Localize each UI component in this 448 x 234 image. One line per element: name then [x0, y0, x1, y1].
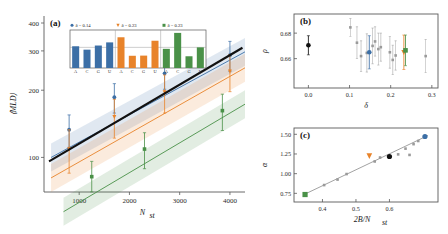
data-point: [379, 156, 382, 159]
data-point: [345, 173, 348, 176]
inset-bar: [140, 56, 147, 68]
inset-bar: [129, 56, 136, 68]
data-point: [323, 184, 326, 187]
panel-b-frame: [294, 14, 438, 88]
data-point: [306, 43, 311, 48]
data-point-group: [424, 40, 427, 73]
inset-bar-label: C: [176, 69, 179, 74]
data-point-group: [371, 28, 374, 64]
inset-bar-label: A: [165, 69, 169, 74]
y-tick-label: 1.00: [280, 170, 291, 177]
legend-label: δ = 0.23: [122, 23, 138, 28]
data-point: [408, 154, 411, 157]
inset-bar: [174, 33, 181, 68]
data-point-group: [360, 41, 363, 72]
x-tick-label: 0.4: [319, 205, 327, 212]
inset-bar: [117, 37, 124, 68]
data-point: [389, 51, 392, 54]
panel-a-xlabel: Nst: [139, 208, 156, 220]
data-point: [367, 50, 372, 55]
y-tick-label: 1.50: [280, 131, 291, 138]
legend-marker: [71, 24, 74, 27]
data-point: [112, 95, 116, 99]
y-tick-label: 100: [29, 154, 40, 162]
data-point-group: [380, 33, 383, 61]
y-tick-label: 0.68: [280, 30, 291, 37]
data-point: [143, 147, 147, 151]
data-point: [387, 154, 392, 159]
data-point: [417, 140, 420, 143]
panel-c-canvas: 0.751.001.251.500.40.50.6α2B/Nst(c): [250, 118, 448, 234]
inset-bar-label: G: [97, 69, 101, 74]
data-point-group: [349, 18, 352, 36]
data-point: [403, 48, 408, 53]
data-point-group: [374, 27, 377, 56]
panel-c-xlabel: 2B/Nst: [354, 215, 388, 227]
inset-bar-label: G: [142, 69, 146, 74]
inset-bar-label: U: [108, 69, 112, 74]
svg-text:st: st: [150, 211, 156, 220]
data-point-group: [389, 36, 392, 68]
x-tick-label: 0.1: [346, 91, 354, 98]
panel-b-ylabel: ρ: [260, 49, 269, 54]
data-point: [221, 109, 225, 113]
data-point: [397, 153, 400, 156]
trend-line: [304, 135, 428, 194]
data-point-group: [391, 45, 394, 74]
x-tick-label: 4000: [223, 197, 238, 205]
data-point-group: [377, 33, 380, 65]
inset-bar: [83, 50, 90, 68]
inset-bar-label: C: [131, 69, 134, 74]
figure-root: 1002003004001000200030004000⟨MLD⟩Nst(a)A…: [0, 0, 448, 234]
y-tick-label: 1.25: [280, 150, 291, 157]
x-tick-label: 0.5: [352, 205, 360, 212]
x-tick-label: 0.0: [305, 91, 313, 98]
data-point-group: [306, 36, 311, 55]
inset-bar: [95, 46, 102, 68]
inset-bar: [106, 42, 113, 68]
inset-bar-chart: ACGUACGUACGU: [70, 30, 206, 74]
data-point: [366, 153, 372, 159]
panel-a-label: (a): [50, 18, 61, 28]
data-point: [371, 45, 374, 48]
inset-bar: [197, 47, 204, 68]
data-point: [422, 134, 427, 139]
legend-marker: [116, 24, 119, 27]
x-tick-label: 3000: [173, 197, 188, 205]
inset-bar-label: C: [86, 69, 89, 74]
data-point-group: [367, 36, 372, 69]
legend-marker: [163, 24, 166, 27]
data-point: [349, 26, 352, 29]
data-point: [373, 160, 376, 163]
data-point: [380, 46, 383, 49]
y-tick-label: 0.66: [280, 55, 291, 62]
data-point: [394, 54, 397, 57]
panel-c: 0.751.001.251.500.40.50.6α2B/Nst(c): [250, 118, 448, 234]
inset-bar: [163, 49, 170, 68]
data-point: [356, 41, 359, 44]
panel-b-xlabel: δ: [364, 101, 368, 110]
data-point: [360, 55, 363, 58]
inset-bar-label: A: [119, 69, 123, 74]
data-point: [302, 192, 307, 197]
panel-a-ylabel: ⟨MLD⟩: [9, 92, 18, 116]
data-point: [404, 147, 407, 150]
data-point-group: [394, 41, 397, 70]
data-point: [336, 178, 339, 181]
panel-b: 0.660.680.00.10.20.3ρδ(b): [250, 4, 448, 120]
svg-text:N: N: [139, 208, 146, 217]
panel-a-legend: δ = 0.14δ = 0.23δ = 0.23: [71, 23, 184, 28]
x-tick-label: 0.2: [387, 91, 395, 98]
inset-bar-label: U: [153, 69, 157, 74]
inset-bar: [185, 56, 192, 68]
x-tick-label: 0.6: [386, 205, 394, 212]
svg-text:st: st: [382, 218, 388, 227]
legend-label: δ = 0.23: [168, 23, 184, 28]
panel-b-label: (b): [300, 16, 311, 26]
y-tick-label: 200: [29, 87, 40, 95]
x-tick-label: 2000: [122, 197, 137, 205]
panel-b-canvas: 0.660.680.00.10.20.3ρδ(b): [250, 4, 448, 120]
data-point: [424, 55, 427, 58]
panel-c-label: (c): [300, 130, 310, 140]
data-point: [374, 40, 377, 43]
